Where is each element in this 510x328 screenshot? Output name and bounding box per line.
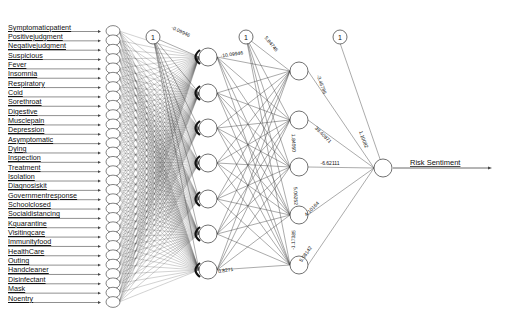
input-label: Treatment <box>8 164 41 172</box>
hidden-node <box>199 119 217 137</box>
input-label: Musclepain <box>8 117 44 125</box>
input-label: Schoolclosed <box>8 201 51 209</box>
input-label: Insomnia <box>8 70 37 78</box>
weight-label: -6.62111 <box>321 160 340 166</box>
input-label: Respiratory <box>8 80 45 88</box>
input-label: Positivejudgment <box>8 33 63 41</box>
network-graph: 111Risk Sentiment-0.09946-10.099465.8474… <box>0 0 510 328</box>
input-label: Outing <box>8 257 29 265</box>
input-label: HealthCare <box>8 248 44 256</box>
weight-label: 5.84746 <box>263 35 279 53</box>
hidden-node <box>199 48 217 66</box>
output-label: Risk Sentiment <box>410 158 461 167</box>
input-label: Visitingcare <box>8 229 45 237</box>
input-label: Fever <box>8 61 26 69</box>
hidden-layer-1 <box>196 48 218 279</box>
weight-label: 5.06252 <box>293 187 300 205</box>
input-label: Sorethroat <box>8 98 42 106</box>
input-label: Dying <box>8 145 26 153</box>
hidden-node <box>199 84 217 102</box>
input-label: Handcleaner <box>8 266 49 274</box>
weight-label: 0.8271 <box>218 266 234 275</box>
hidden-node <box>199 261 217 279</box>
input-label: Depression <box>8 126 44 134</box>
input-label: Inspection <box>8 154 41 162</box>
weight-label: 1.10082 <box>358 130 370 149</box>
bias-node-2-label: 1 <box>244 34 248 41</box>
hidden-node <box>199 154 217 172</box>
input-label: Socialdistancing <box>8 210 60 218</box>
hidden-node <box>199 225 217 243</box>
bias-node-3-label: 1 <box>338 34 342 41</box>
neural-network-diagram: 111Risk Sentiment-0.09946-10.099465.8474… <box>0 0 510 328</box>
input-node <box>106 297 120 308</box>
input-label: Asymptomatic <box>8 136 53 144</box>
input-label: Symptomaticpatient <box>8 24 71 32</box>
weight-label: -0.09946 <box>171 24 192 38</box>
input-label: Noentry <box>8 295 33 303</box>
weight-label: 1.84050 <box>291 134 298 152</box>
output-node <box>374 159 392 177</box>
input-label: Mask <box>8 285 25 293</box>
hidden-node <box>290 62 308 80</box>
input-label: Governmentresponse <box>8 192 77 200</box>
input-label: Digestive <box>8 108 38 116</box>
input-label: Suspicious <box>8 52 43 60</box>
weight-label: 39.40871 <box>314 125 333 144</box>
hidden-node <box>290 158 308 176</box>
hidden-node <box>290 111 308 129</box>
weight-label: -1.17385 <box>290 230 297 250</box>
bias-node-1-label: 1 <box>151 34 155 41</box>
input-label: Immunityfood <box>8 238 51 246</box>
input-label: Isolation <box>8 173 35 181</box>
hidden-node <box>199 190 217 208</box>
edges <box>119 31 380 302</box>
input-label: Disinfectant <box>8 276 46 284</box>
input-label: Negativejudgment <box>8 42 66 50</box>
arrowhead-icon <box>488 166 492 169</box>
weight-label: -3.46786 <box>316 74 328 95</box>
input-label: Cold <box>8 89 23 97</box>
weight-label: -10.09946 <box>220 49 243 58</box>
input-label: Kquarantine <box>8 220 47 228</box>
input-label: Diagnosiskit <box>8 182 47 190</box>
